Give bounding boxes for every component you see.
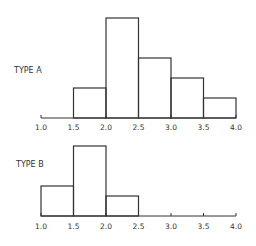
x-tick-label: 3.0 [165,123,177,132]
histogram-bar [139,58,172,118]
x-tick-label: 1.5 [68,123,80,132]
histogram-type-a: TYPE A1.01.52.02.53.03.54.0 [13,18,242,132]
histogram-bar [171,78,204,118]
histogram-bar [74,88,107,118]
x-tick-label: 2.0 [100,222,112,231]
x-tick-label: 2.5 [133,123,145,132]
x-tick-label: 3.0 [165,222,177,231]
x-tick-label: 1.0 [35,222,47,231]
x-tick-label: 2.5 [133,222,145,231]
histogram-bar [74,146,107,216]
x-tick-label: 3.5 [198,123,210,132]
x-tick-label: 4.0 [230,222,242,231]
histogram-figure: TYPE A1.01.52.02.53.03.54.0 TYPE B1.01.5… [0,0,256,246]
x-tick-label: 1.5 [68,222,80,231]
histogram-bar [106,18,139,118]
histogram-bar [204,98,237,118]
x-tick-label: 2.0 [100,123,112,132]
histogram-bar [106,196,139,216]
histogram-type-b: TYPE B1.01.52.02.53.03.54.0 [15,146,242,231]
x-tick-label: 1.0 [35,123,47,132]
x-tick-label: 3.5 [198,222,210,231]
histogram-bar [41,186,74,216]
x-tick-label: 4.0 [230,123,242,132]
panel-title: TYPE A [13,66,42,75]
panel-title: TYPE B [15,160,44,169]
